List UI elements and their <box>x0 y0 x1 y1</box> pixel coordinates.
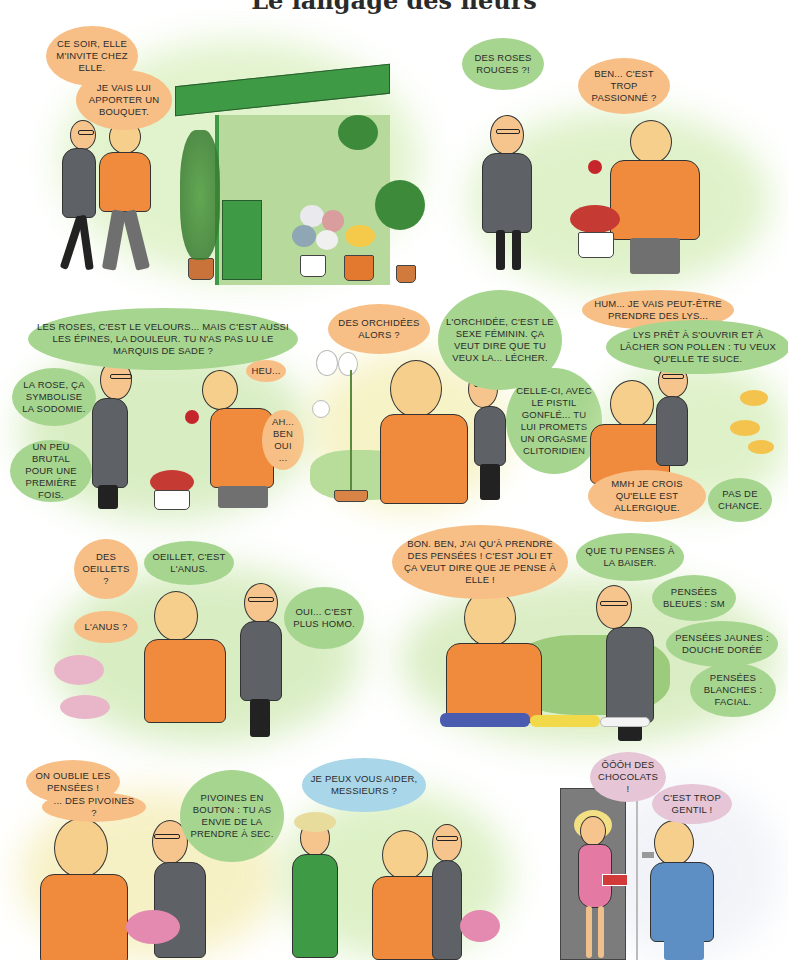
speech-bubble: C'EST TROP GENTIL ! <box>652 784 732 824</box>
orchid <box>338 352 358 376</box>
peony-bouquet <box>126 910 180 944</box>
speech-bubble: PAS DE CHANCE. <box>708 478 772 522</box>
plant-pot <box>344 255 374 281</box>
rose-bouquet <box>570 205 620 233</box>
shop-door <box>222 200 262 280</box>
flower <box>345 225 375 247</box>
climbing-plant <box>180 130 220 260</box>
panel-3: LES ROSES, C'EST LE VELOURS... MAIS C'ES… <box>0 300 310 520</box>
speech-bubble: MMH JE CROIS QU'ELLE EST ALLERGIQUE. <box>588 470 706 522</box>
chocolate-box <box>602 874 628 886</box>
flower <box>316 230 338 250</box>
plant-pot <box>396 265 416 283</box>
orchid <box>312 400 330 418</box>
speech-bubble: JE VAIS LUI APPORTER UN BOUQUET. <box>76 70 172 130</box>
flower <box>292 225 316 247</box>
speech-bubble: QUE TU PENSES À LA BAISER. <box>576 533 684 581</box>
bucket <box>300 255 326 277</box>
speech-bubble: ÔÔÔH DES CHOCOLATS ! <box>590 752 666 802</box>
flower-stand <box>578 232 614 258</box>
speech-bubble: PENSÉES BLEUES : SM <box>652 575 736 621</box>
speech-bubble: OUI... C'EST PLUS HOMO. <box>284 587 364 649</box>
speech-bubble: JE PEUX VOUS AIDER, MESSIEURS ? <box>302 758 426 812</box>
speech-bubble: PENSÉES BLANCHES : FACIAL. <box>690 663 776 717</box>
speech-bubble: HEU... <box>246 360 286 382</box>
lily <box>748 440 774 454</box>
flower <box>300 205 324 227</box>
white-pansies <box>600 717 650 727</box>
speech-bubble: DES ROSES ROUGES ?! <box>462 38 544 90</box>
speech-bubble: ... DES PIVOINES ? <box>42 792 146 822</box>
panel-8: ON OUBLIE LES PENSÉES ! ... DES PIVOINES… <box>20 750 290 960</box>
carnation-bouquet <box>54 655 104 685</box>
blue-pansies <box>440 713 530 727</box>
speech-bubble: BEN... C'EST TROP PASSIONNÉ ? <box>578 58 670 114</box>
peony-bouquet <box>460 910 500 942</box>
carnation-bouquet <box>60 695 110 719</box>
flower-stand <box>154 490 190 510</box>
lily <box>740 390 768 406</box>
rose <box>185 410 199 424</box>
speech-bubble: PIVOINES EN BOUTON : TU AS ENVIE DE LA P… <box>180 770 284 862</box>
speech-bubble: BON. BEN, J'AI QU'À PRENDRE DES PENSÉES … <box>392 525 568 599</box>
doorbell <box>642 852 654 858</box>
rose <box>588 160 602 174</box>
plant-pot <box>188 258 214 280</box>
panel-9: JE PEUX VOUS AIDER, MESSIEURS ? <box>280 750 510 960</box>
hanging-basket <box>338 115 378 150</box>
door-frame <box>636 800 638 960</box>
speech-bubble: LYS PRÊT À S'OUVRIR ET À LÂCHER SON POLL… <box>606 320 788 374</box>
speech-bubble: AH... BEN OUI ... <box>262 410 304 470</box>
page-title: Le langage des fleurs <box>0 0 788 15</box>
panel-10: ÔÔÔH DES CHOCOLATS ! C'EST TROP GENTIL ! <box>550 740 788 960</box>
panel-5: HUM... JE VAIS PEUT-ÊTRE PRENDRE DES LYS… <box>580 290 788 530</box>
plant-pot <box>334 490 368 502</box>
speech-bubble: UN PEU BRUTAL POUR UNE PREMIÈRE FOIS. <box>10 440 92 502</box>
speech-bubble: OEILLET, C'EST L'ANUS. <box>144 541 234 585</box>
panel-6: DES OEILLETS ? OEILLET, C'EST L'ANUS. L'… <box>40 535 370 750</box>
speech-bubble: DES OEILLETS ? <box>74 539 138 599</box>
panel-2: DES ROSES ROUGES ?! BEN... C'EST TROP PA… <box>450 20 788 290</box>
orchid <box>316 350 338 376</box>
panel-4: DES ORCHIDÉES ALORS ? L'ORCHIDÉE, C'EST … <box>310 290 590 520</box>
panel-1: CE SOIR, ELLE M'INVITE CHEZ ELLE. JE VAI… <box>0 20 440 290</box>
speech-bubble: DES ORCHIDÉES ALORS ? <box>328 304 430 354</box>
speech-bubble: L'ANUS ? <box>74 611 138 643</box>
flower <box>322 210 344 232</box>
panel-7: BON. BEN, J'AI QU'À PRENDRE DES PENSÉES … <box>390 525 788 750</box>
yellow-pansies <box>530 715 600 727</box>
speech-bubble: LA ROSE, ÇA SYMBOLISE LA SODOMIE. <box>12 368 96 426</box>
topiary-tree <box>375 180 425 230</box>
speech-bubble: PENSÉES JAUNES : DOUCHE DORÉE <box>666 621 778 667</box>
lily <box>730 420 760 436</box>
orchid-stem <box>350 370 352 490</box>
